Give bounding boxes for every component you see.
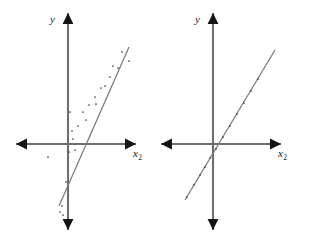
panel-left-svg: y x2 [0, 0, 155, 248]
y-axis-top-arrowhead [208, 13, 219, 24]
regression-line [59, 47, 129, 206]
y-axis-bottom-arrowhead [63, 219, 74, 230]
x-axis-left-arrowhead [16, 139, 27, 150]
figure-container: y x2 [0, 0, 309, 248]
y-axis-top-arrowhead [63, 13, 74, 24]
panel-right-svg: y x2 [154, 0, 309, 248]
regression-line [185, 50, 275, 200]
y-axis-bottom-arrowhead [208, 219, 219, 230]
x-axis-label: x2 [132, 147, 142, 162]
x-axis-label: x2 [277, 147, 287, 162]
y-axis-label: y [194, 13, 200, 25]
panel-right-perfect-fit: y x2 [154, 0, 309, 248]
y-axis-label: y [49, 13, 55, 25]
x-axis-left-arrowhead [161, 139, 172, 150]
panel-left-imperfect-fit: y x2 [0, 0, 155, 248]
scatter-points [47, 51, 130, 216]
